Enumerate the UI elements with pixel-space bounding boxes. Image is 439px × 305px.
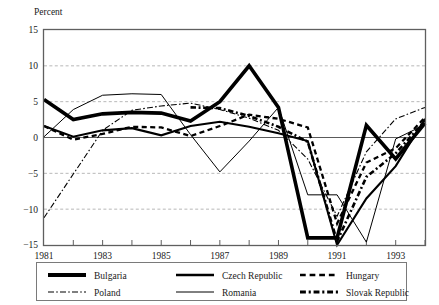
y-tick-label-5: 5 <box>33 97 38 107</box>
legend-label-slovak-republic: Slovak Republic <box>346 288 409 298</box>
x-tick-label-1991: 1991 <box>328 251 347 261</box>
y-tick-label-15: 15 <box>29 25 39 35</box>
x-tick-label-1981: 1981 <box>35 251 54 261</box>
y-axis-title: Percent <box>34 7 63 17</box>
legend-label-czech-republic: Czech Republic <box>222 271 282 281</box>
x-tick-label-1993: 1993 <box>386 251 405 261</box>
y-tick-label-10: 10 <box>29 61 39 71</box>
x-tick-label-1989: 1989 <box>269 251 288 261</box>
line-chart-figure: Percent 151050−5−10−15 19811983198519871… <box>0 0 439 305</box>
x-tick-label-1987: 1987 <box>210 251 229 261</box>
legend-label-hungary: Hungary <box>346 271 379 281</box>
x-tick-label-1985: 1985 <box>152 251 171 261</box>
y-tick-label--10: −10 <box>23 205 38 215</box>
legend-label-bulgaria: Bulgaria <box>94 271 127 281</box>
y-tick-label-0: 0 <box>33 133 38 143</box>
y-tick-label--5: −5 <box>28 169 38 179</box>
x-tick-label-1983: 1983 <box>93 251 112 261</box>
legend-label-romania: Romania <box>222 288 257 298</box>
legend-label-poland: Poland <box>94 288 121 298</box>
y-tick-label--15: −15 <box>23 240 38 250</box>
